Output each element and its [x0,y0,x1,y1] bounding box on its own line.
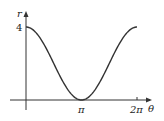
chart: r θ 4 π 2π [0,0,164,121]
x-axis-arrow-icon [146,98,152,103]
y-axis-arrow-icon [24,11,29,17]
y-tick-label-4: 4 [16,22,22,33]
y-axis-label: r [17,8,23,19]
x-tick-label-2pi: 2π [129,104,143,115]
data-curve [26,27,137,100]
x-tick-label-pi: π [77,104,85,115]
x-axis-label: θ [148,103,154,114]
